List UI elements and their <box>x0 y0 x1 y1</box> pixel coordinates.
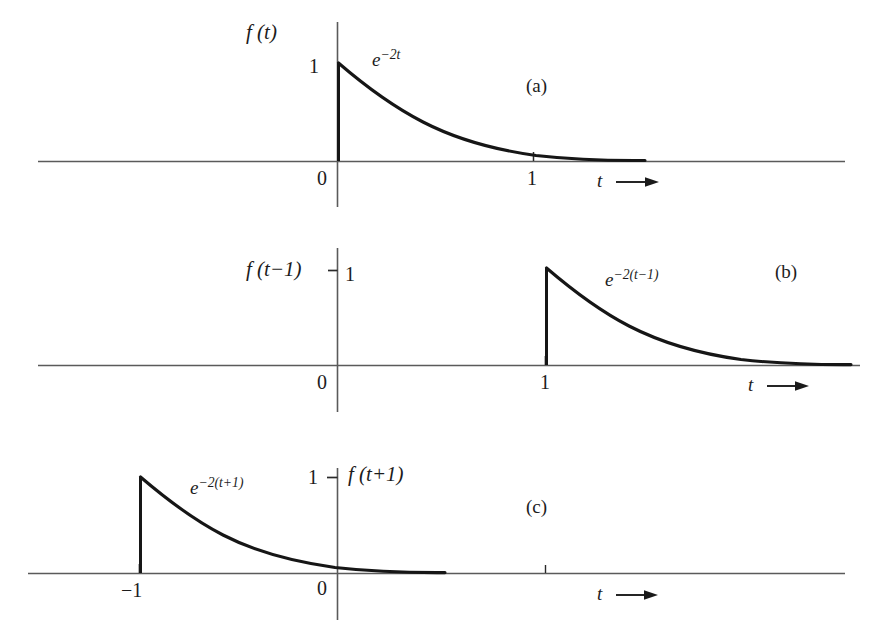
panel-a-t-arrow-icon <box>616 177 659 187</box>
panel-b-origin-label: 0 <box>317 372 327 392</box>
panel-c-y-tick-label: 1 <box>308 467 318 487</box>
figure-container: f (t) 1 e−2t (a) 0 1 t f (t−1) 1 e−2(t−1… <box>0 0 871 642</box>
panel-a-origin-label: 0 <box>317 168 327 188</box>
panel-c-x-tick-label: −1 <box>121 580 142 600</box>
panel-c-axis-variable: t <box>597 584 602 603</box>
plots-svg <box>0 0 871 642</box>
panel-c-graphics <box>28 468 845 620</box>
panel-b-tag: (b) <box>775 262 797 281</box>
panel-a-exponential-curve <box>339 63 646 161</box>
panel-b-graphics <box>38 248 860 412</box>
panel-c-t-arrow-icon <box>616 590 658 600</box>
panel-b-exponential-curve <box>547 268 852 365</box>
panel-a-tag: (a) <box>526 76 547 95</box>
panel-b-expression-label: e−2(t−1) <box>605 270 658 289</box>
panel-a-x-tick-label: 1 <box>527 168 537 188</box>
panel-b-function-label: f (t−1) <box>246 259 302 280</box>
panel-a-function-label: f (t) <box>246 22 277 43</box>
panel-c-expression-label: e−2(t+1) <box>190 478 243 497</box>
panel-c-exponential-curve <box>141 477 446 573</box>
panel-a-graphics <box>38 22 845 207</box>
panel-a-expression-label: e−2t <box>372 50 400 69</box>
panel-a-y-tick-label: 1 <box>309 56 319 76</box>
panel-c-tag: (c) <box>526 497 547 516</box>
panel-b-y-tick-label: 1 <box>345 264 355 284</box>
panel-b-x-tick-label: 1 <box>540 372 550 392</box>
panel-c-origin-label: 0 <box>317 578 327 598</box>
panel-b-t-arrow-icon <box>767 381 809 391</box>
panel-b-axis-variable: t <box>748 375 753 394</box>
panel-a-axis-variable: t <box>597 171 602 190</box>
panel-c-function-label: f (t+1) <box>348 464 404 485</box>
